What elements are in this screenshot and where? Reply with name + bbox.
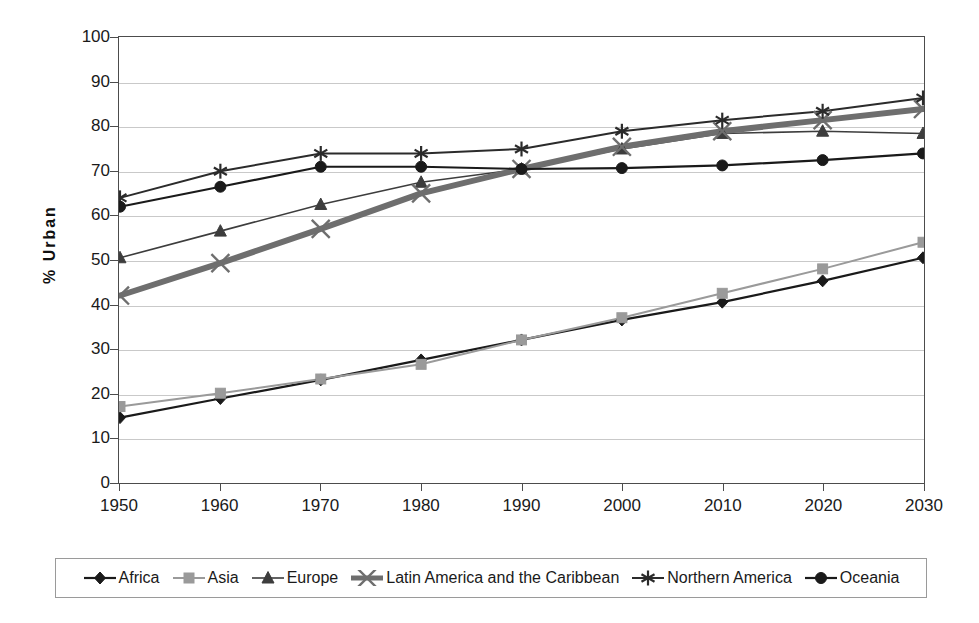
series-point — [817, 155, 828, 166]
x-axis-tick-label: 1960 — [185, 496, 255, 515]
series-point — [717, 288, 727, 298]
plot-area — [118, 36, 925, 484]
series-point — [119, 402, 125, 412]
series-point — [517, 335, 527, 345]
legend-label: Africa — [117, 570, 160, 586]
x-axis-tick-mark — [320, 484, 321, 491]
y-axis-tick-label: 80 — [66, 117, 110, 134]
legend-label: Latin America and the Caribbean — [384, 570, 619, 586]
series-point — [516, 164, 527, 175]
legend-item[interactable]: Asia — [166, 570, 245, 586]
legend: AfricaAsiaEuropeLatin America and the Ca… — [55, 558, 927, 598]
y-axis-tick-label: 70 — [66, 162, 110, 179]
x-axis-tick-label: 2030 — [889, 496, 959, 515]
x-axis-tick-label: 2000 — [587, 496, 657, 515]
legend-marker-icon — [631, 570, 665, 586]
series-point — [918, 148, 924, 159]
y-axis-tick-mark — [110, 394, 118, 395]
y-axis-tick-mark — [110, 483, 118, 484]
x-axis-tick-mark — [723, 484, 724, 491]
y-axis-tick-mark — [110, 171, 118, 172]
x-axis-tick-mark — [119, 484, 120, 491]
legend-marker-icon — [804, 570, 838, 586]
legend-label: Northern America — [665, 570, 792, 586]
series-point — [817, 125, 829, 136]
series-point — [617, 313, 627, 323]
y-axis-tick-mark — [110, 215, 118, 216]
series-point — [416, 359, 426, 369]
x-axis-tick-mark — [823, 484, 824, 491]
x-axis-tick-mark — [622, 484, 623, 491]
y-axis-tick-mark — [110, 349, 118, 350]
y-axis-tick-mark — [110, 37, 118, 38]
series-point — [416, 161, 427, 172]
x-axis-tick-mark — [924, 484, 925, 491]
series-point — [918, 237, 924, 247]
series-point — [717, 160, 728, 171]
y-axis-tick-label: 90 — [66, 73, 110, 90]
y-axis-tick-mark — [110, 82, 118, 83]
series-point — [315, 161, 326, 172]
legend-item[interactable]: Africa — [77, 570, 166, 586]
series-point — [316, 374, 326, 384]
y-axis-tick-mark — [110, 260, 118, 261]
y-axis-tick-label: 50 — [66, 251, 110, 268]
x-axis-tick-mark — [522, 484, 523, 491]
series-point — [119, 201, 125, 212]
legend-marker-icon — [251, 570, 285, 586]
legend-marker-icon — [83, 570, 117, 586]
y-axis-tick-label: 100 — [66, 28, 110, 45]
series-point — [215, 181, 226, 192]
series-line — [120, 242, 923, 406]
series-point — [616, 163, 627, 174]
y-axis-tick-mark — [110, 438, 118, 439]
y-axis-tick-label: 60 — [66, 206, 110, 223]
y-axis-tick-label: 40 — [66, 296, 110, 313]
y-axis-tick-mark — [110, 305, 118, 306]
x-axis-tick-label: 1990 — [487, 496, 557, 515]
series-point — [918, 252, 924, 264]
series-point — [119, 412, 125, 424]
y-axis-tick-label: 20 — [66, 385, 110, 402]
x-axis-tick-label: 2010 — [688, 496, 758, 515]
y-axis-tick-label: 10 — [66, 429, 110, 446]
legend-marker-icon — [172, 570, 206, 586]
series-point — [215, 388, 225, 398]
legend-marker-icon — [350, 570, 384, 586]
legend-item[interactable]: Latin America and the Caribbean — [344, 570, 625, 586]
y-axis-tick-label: 30 — [66, 340, 110, 357]
legend-item[interactable]: Northern America — [625, 570, 798, 586]
y-axis-tick-label: 0 — [66, 474, 110, 491]
legend-label: Asia — [206, 570, 239, 586]
legend-label: Oceania — [838, 570, 900, 586]
y-axis-tick-mark — [110, 126, 118, 127]
x-axis-tick-mark — [220, 484, 221, 491]
series-point — [817, 275, 828, 287]
legend-label: Europe — [285, 570, 339, 586]
x-axis-tick-label: 2020 — [788, 496, 858, 515]
legend-item[interactable]: Oceania — [798, 570, 906, 586]
y-axis-title: % Urban — [38, 170, 62, 320]
urbanization-line-chart: % Urban 0102030405060708090100 195019601… — [0, 0, 979, 623]
series-line — [120, 109, 923, 295]
legend-item[interactable]: Europe — [245, 570, 345, 586]
series-layer — [119, 37, 924, 483]
series-point — [818, 264, 828, 274]
x-axis-tick-label: 1950 — [84, 496, 154, 515]
x-axis-tick-mark — [421, 484, 422, 491]
x-axis-tick-label: 1970 — [285, 496, 355, 515]
series-line — [120, 153, 923, 206]
x-axis-tick-label: 1980 — [386, 496, 456, 515]
